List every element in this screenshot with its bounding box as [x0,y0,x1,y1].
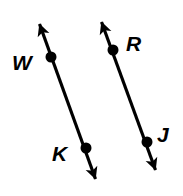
point-label-r: R [126,33,141,54]
point-dot-k [81,143,92,154]
point-dot-r [108,45,119,56]
line-wk [40,24,96,179]
figure-canvas [0,0,183,196]
point-label-w: W [12,52,32,73]
point-label-j: J [157,124,169,145]
point-dot-j [142,137,153,148]
point-label-k: K [52,143,67,164]
point-dot-w [46,52,57,63]
geometry-figure: W K R J [0,0,183,196]
